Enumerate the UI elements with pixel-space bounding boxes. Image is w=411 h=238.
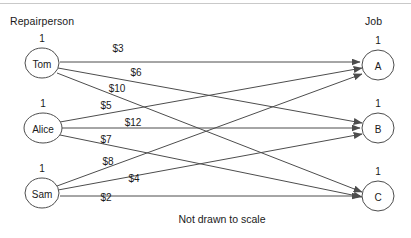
cost-label-tom-c: $10: [109, 83, 126, 94]
cost-label-alice-b: $12: [125, 117, 142, 128]
demand-node-b[interactable]: [362, 113, 394, 143]
supply-amount-tom: 1: [22, 33, 62, 44]
supply-node-alice[interactable]: [24, 113, 62, 143]
demand-node-c[interactable]: [362, 181, 394, 211]
supply-node-tom[interactable]: [25, 48, 59, 78]
demand-amount-b: 1: [358, 98, 398, 109]
edges-group: [57, 62, 362, 197]
supply-node-sam[interactable]: [25, 178, 59, 208]
cost-label-tom-a: $3: [112, 43, 123, 54]
demand-node-a[interactable]: [362, 50, 394, 80]
cost-label-sam-a: $8: [102, 156, 113, 167]
demand-amount-a: 1: [358, 35, 398, 46]
supply-amount-alice: 1: [23, 98, 63, 109]
cost-label-alice-c: $7: [100, 134, 111, 145]
cost-label-alice-a: $5: [100, 100, 111, 111]
supply-amount-sam: 1: [22, 163, 62, 174]
diagram-canvas: Repairperson Job $3$6$10$5$12$7$8$4$2Tom…: [0, 0, 411, 238]
figure-footnote: Not drawn to scale: [179, 213, 266, 225]
demand-amount-c: 1: [358, 166, 398, 177]
cost-label-sam-b: $4: [128, 173, 139, 184]
cost-label-tom-b: $6: [130, 67, 141, 78]
cost-label-sam-c: $2: [100, 192, 111, 203]
